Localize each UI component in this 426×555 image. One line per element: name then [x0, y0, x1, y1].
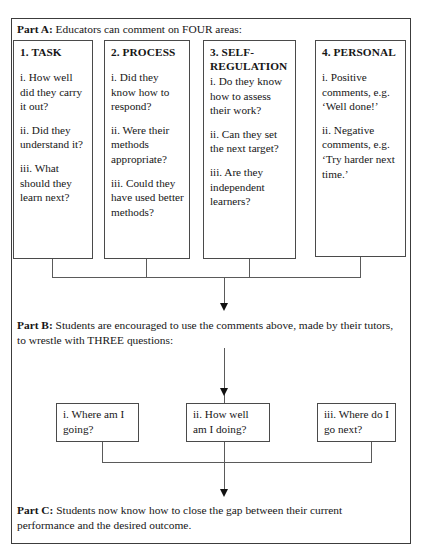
area-box-self-regulation-item-iii: iii. Are they independent learners?	[210, 165, 290, 209]
connector-rail-bottom	[102, 462, 372, 463]
area-box-self-regulation-title: 3. SELF-REGULATION	[210, 45, 290, 73]
area-box-self-regulation-item-i: i. Do they know how to assess their work…	[210, 74, 290, 118]
area-box-process-item-i: i. Did they know how to respond?	[111, 70, 184, 114]
part-a-label: Part A:	[17, 23, 53, 35]
area-box-process-item-iii: iii. Could they have used better methods…	[111, 176, 184, 220]
area-box-task-item-i: i. How well did they carry it out?	[20, 70, 87, 114]
area-box-process-item-ii: ii. Were their methods appropriate?	[111, 123, 184, 167]
connector-drop-question-2	[224, 442, 225, 463]
part-b-heading: Part B: Students are encouraged to use t…	[17, 318, 402, 348]
connector-drop-task	[52, 259, 53, 278]
question-box-where-am-i-going[interactable]: i. Where am I going?	[56, 403, 139, 442]
area-box-personal-item-i: i. Positive comments, e.g. ‘Well done!’	[322, 70, 400, 114]
connector-drop-process	[146, 259, 147, 278]
area-box-personal-title: 4. PERSONAL	[322, 45, 400, 59]
question-box-where-do-i-go-next[interactable]: iii. Where do I go next?	[317, 403, 396, 442]
area-box-process[interactable]: 2. PROCESS i. Did they know how to respo…	[104, 40, 190, 259]
connector-stem-to-part-b	[224, 277, 225, 305]
question-box-how-well-am-i-doing[interactable]: ii. How well am I doing?	[186, 403, 270, 442]
part-c-label: Part C:	[17, 504, 53, 516]
area-box-self-regulation-item-ii: ii. Can they set the next target?	[210, 127, 290, 156]
connector-drop-personal	[360, 257, 361, 278]
part-c-heading: Part C: Students now know how to close t…	[17, 503, 402, 533]
connector-stem-to-part-c	[224, 462, 225, 491]
connector-drop-question-1	[102, 442, 103, 463]
area-box-task[interactable]: 1. TASK i. How well did they carry it ou…	[13, 40, 93, 259]
area-box-personal-item-ii: ii. Negative comments, e.g. ‘Try harder …	[322, 123, 400, 181]
area-box-task-item-iii: iii. What should they learn next?	[20, 161, 87, 205]
connector-rail-top	[52, 277, 361, 278]
part-a-heading-text: Educators can comment on FOUR areas:	[53, 23, 242, 35]
area-box-process-title: 2. PROCESS	[111, 45, 184, 59]
part-b-heading-text: Students are encouraged to use the comme…	[17, 319, 393, 346]
connector-drop-question-3	[371, 442, 372, 463]
part-a-heading: Part A: Educators can comment on FOUR ar…	[17, 22, 407, 37]
area-box-task-item-ii: ii. Did they understand it?	[20, 123, 87, 152]
part-b-label: Part B:	[17, 319, 53, 331]
arrowhead-down-icon-to-questions	[220, 388, 228, 396]
part-c-heading-text: Students now know how to close the gap b…	[17, 504, 342, 531]
arrowhead-down-icon-to-part-b	[220, 303, 228, 311]
area-box-self-regulation[interactable]: 3. SELF-REGULATION i. Do they know how t…	[203, 40, 296, 259]
connector-drop-self-regulation	[249, 259, 250, 278]
area-box-task-title: 1. TASK	[20, 45, 87, 59]
arrowhead-down-icon-to-part-c	[220, 489, 228, 497]
area-box-personal[interactable]: 4. PERSONAL i. Positive comments, e.g. ‘…	[315, 40, 406, 257]
